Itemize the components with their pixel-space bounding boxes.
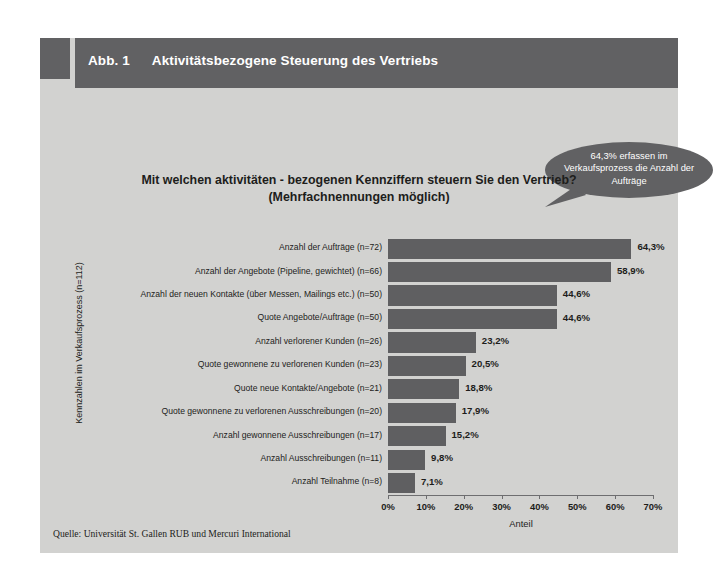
bar-value-label: 18,8%: [465, 382, 492, 393]
bar-row: Anzahl Teilnahme (n=8)7,1%: [388, 471, 653, 494]
plot-area: Anzahl der Aufträge (n=72)64,3%Anzahl de…: [388, 237, 653, 495]
chart-title: Mit welchen aktivitäten - bezogenen Kenn…: [40, 172, 678, 206]
bar: [388, 239, 631, 259]
bar: [388, 379, 459, 399]
bar-category-label: Quote gewonnene zu verlorenen Kunden (n=…: [198, 359, 382, 369]
bar-value-label: 7,1%: [421, 476, 443, 487]
x-axis-tick: [464, 495, 465, 499]
bar-row: Quote neue Kontakte/Angebote (n=21)18,8%: [388, 378, 653, 401]
figure-panel: Abb. 1Aktivitätsbezogene Steuerung des V…: [40, 38, 678, 553]
bar-category-label: Anzahl der Angebote (Pipeline, gewichtet…: [195, 266, 382, 276]
bar-category-label: Anzahl Teilnahme (n=8): [292, 476, 382, 486]
x-axis-tick: [502, 495, 503, 499]
bar: [388, 450, 425, 470]
x-axis-tick-label: 70%: [644, 501, 663, 512]
x-axis-title: Anteil: [388, 518, 654, 529]
x-axis-tick: [577, 495, 578, 499]
x-axis-tick-label: 10%: [416, 501, 435, 512]
bar-category-label: Anzahl verlorener Kunden (n=26): [255, 336, 382, 346]
x-axis-tick-label: 20%: [454, 501, 473, 512]
bar-category-label: Anzahl der neuen Kontakte (über Messen, …: [141, 289, 382, 299]
x-axis-tick-label: 60%: [606, 501, 625, 512]
x-axis-tick-label: 50%: [568, 501, 587, 512]
bar-value-label: 23,2%: [482, 335, 509, 346]
x-axis-tick: [615, 495, 616, 499]
source-note: Quelle: Universität St. Gallen RUB und M…: [53, 528, 291, 539]
bar: [388, 473, 415, 493]
bar-row: Anzahl verlorener Kunden (n=26)23,2%: [388, 331, 653, 354]
bar: [388, 309, 557, 329]
bar-row: Anzahl gewonnene Ausschreibungen (n=17)1…: [388, 425, 653, 448]
bar-category-label: Quote neue Kontakte/Angebote (n=21): [234, 383, 382, 393]
x-axis-line: [388, 495, 654, 496]
bar: [388, 403, 456, 423]
bar: [388, 262, 611, 282]
figure-number: Abb. 1: [88, 53, 130, 68]
x-axis-tick-label: 30%: [492, 501, 511, 512]
bar-category-label: Anzahl Ausschreibungen (n=11): [261, 453, 382, 463]
bar-row: Anzahl der Aufträge (n=72)64,3%: [388, 237, 653, 260]
bar-category-label: Quote Angebote/Aufträge (n=50): [258, 312, 382, 322]
bar-row: Quote gewonnene zu verlorenen Ausschreib…: [388, 401, 653, 424]
header-accent-block: [40, 38, 70, 79]
x-axis-tick-label: 40%: [530, 501, 549, 512]
bar-value-label: 64,3%: [637, 241, 664, 252]
x-axis-tick-label: 0%: [381, 501, 395, 512]
bar-value-label: 58,9%: [617, 265, 644, 276]
x-axis-tick: [653, 495, 654, 499]
x-axis-tick: [388, 495, 389, 499]
bar-value-label: 20,5%: [472, 358, 499, 369]
x-axis-tick: [539, 495, 540, 499]
bar-row: Anzahl Ausschreibungen (n=11)9,8%: [388, 448, 653, 471]
bar-category-label: Anzahl der Aufträge (n=72): [279, 242, 382, 252]
figure-title: Aktivitätsbezogene Steuerung des Vertrie…: [152, 53, 438, 68]
bar-row: Anzahl der neuen Kontakte (über Messen, …: [388, 284, 653, 307]
bar: [388, 426, 446, 446]
bar-row: Anzahl der Angebote (Pipeline, gewichtet…: [388, 260, 653, 283]
bar-value-label: 44,6%: [563, 288, 590, 299]
bar-value-label: 15,2%: [452, 429, 479, 440]
bar-value-label: 9,8%: [431, 452, 453, 463]
bar-value-label: 17,9%: [462, 405, 489, 416]
bar-value-label: 44,6%: [563, 312, 590, 323]
chart-title-line1: Mit welchen aktivitäten - bezogenen Kenn…: [40, 172, 678, 189]
bar-row: Quote gewonnene zu verlorenen Kunden (n=…: [388, 354, 653, 377]
bar: [388, 285, 557, 305]
figure-header-band: Abb. 1Aktivitätsbezogene Steuerung des V…: [75, 38, 678, 88]
figure-header-text: Abb. 1Aktivitätsbezogene Steuerung des V…: [88, 51, 438, 69]
y-axis-title: Kennzahlen im Verkaufsprozess (n=112): [74, 228, 84, 458]
bar-category-label: Quote gewonnene zu verlorenen Ausschreib…: [162, 406, 383, 416]
bar: [388, 356, 466, 376]
chart-title-line2: (Mehrfachnennungen möglich): [40, 189, 678, 206]
x-axis-tick: [426, 495, 427, 499]
bar-row: Quote Angebote/Aufträge (n=50)44,6%: [388, 307, 653, 330]
bar: [388, 332, 476, 352]
bar-category-label: Anzahl gewonnene Ausschreibungen (n=17): [213, 430, 382, 440]
